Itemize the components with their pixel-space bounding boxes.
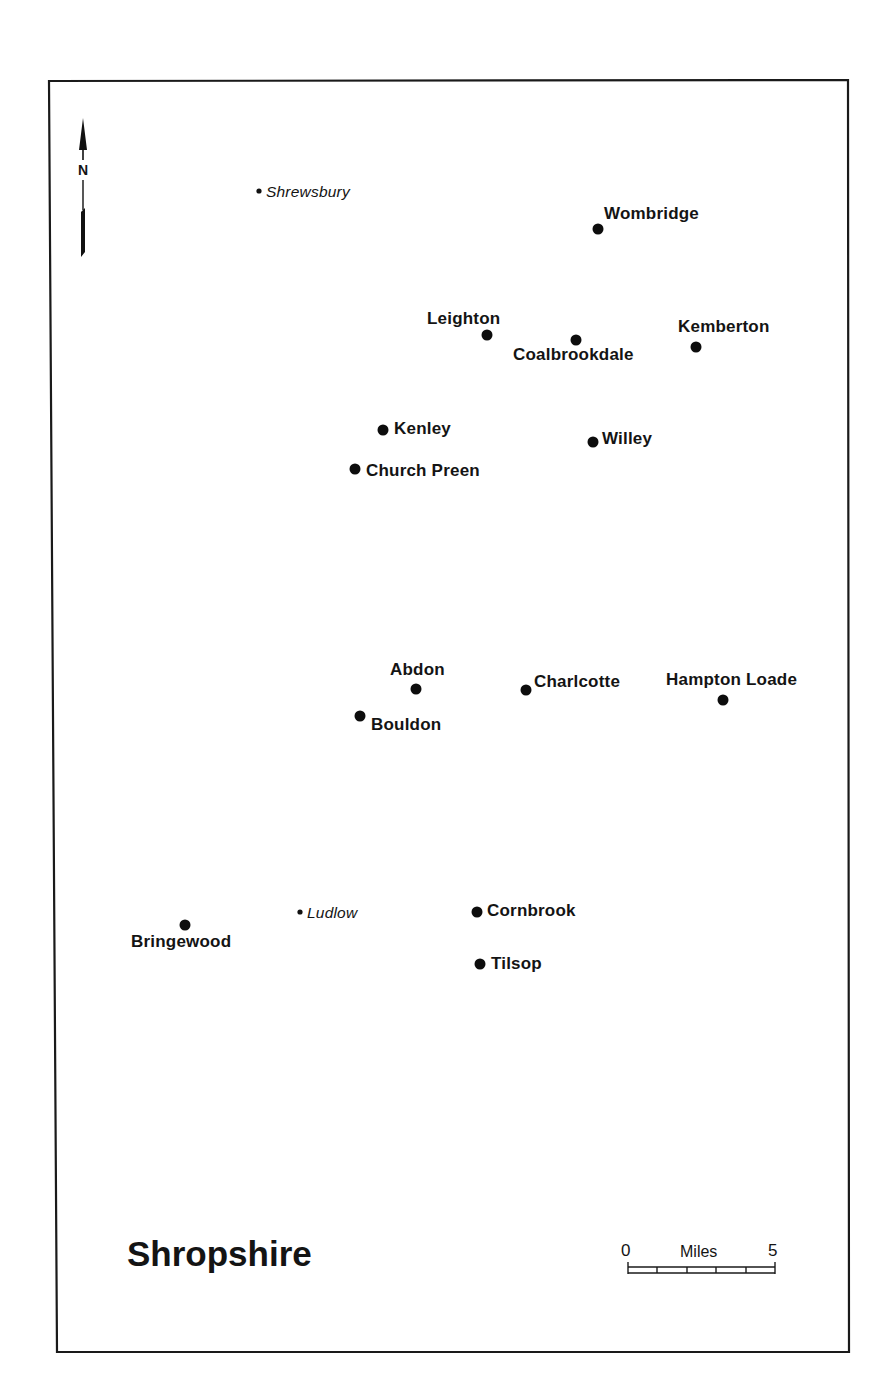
site-label-kemberton: Kemberton [678, 318, 770, 335]
site-dot-willey [588, 437, 599, 448]
site-dot-wombridge [593, 224, 604, 235]
map-title: Shropshire [127, 1236, 312, 1271]
north-label: N [78, 163, 88, 177]
site-dot-coalbrookdale [571, 335, 582, 346]
scale-end-label: 5 [768, 1242, 777, 1259]
site-dot-leighton [482, 330, 493, 341]
site-label-wombridge: Wombridge [604, 205, 699, 222]
site-dot-charlcotte [521, 685, 532, 696]
site-label-coalbrookdale: Coalbrookdale [513, 346, 634, 363]
site-label-willey: Willey [602, 430, 652, 447]
map-frame [49, 80, 849, 1352]
site-dot-abdon [411, 684, 422, 695]
site-label-leighton: Leighton [427, 310, 500, 327]
site-label-cornbrook: Cornbrook [487, 902, 576, 919]
site-dot-bouldon [355, 711, 366, 722]
site-dot-tilsop [475, 959, 486, 970]
north-arrow-icon [79, 118, 87, 257]
site-dot-hampton-loade [718, 695, 729, 706]
site-label-bringewood: Bringewood [131, 933, 231, 950]
site-label-bouldon: Bouldon [371, 716, 441, 733]
site-label-kenley: Kenley [394, 420, 451, 437]
town-label-shrewsbury: Shrewsbury [266, 184, 350, 200]
town-dot-ludlow [297, 909, 302, 914]
site-label-tilsop: Tilsop [491, 955, 542, 972]
scale-bar [628, 1262, 775, 1274]
site-dot-bringewood [180, 920, 191, 931]
site-dot-cornbrook [472, 907, 483, 918]
site-dot-kenley [378, 425, 389, 436]
town-dot-shrewsbury [256, 188, 261, 193]
site-dot-kemberton [691, 342, 702, 353]
site-label-church-preen: Church Preen [366, 462, 480, 479]
site-label-abdon: Abdon [390, 661, 445, 678]
site-label-hampton-loade: Hampton Loade [666, 671, 797, 688]
site-label-charlcotte: Charlcotte [534, 673, 620, 690]
scale-start-label: 0 [621, 1242, 630, 1259]
town-label-ludlow: Ludlow [307, 905, 357, 921]
site-dot-church-preen [350, 464, 361, 475]
scale-unit-label: Miles [680, 1244, 717, 1260]
map-canvas [0, 0, 887, 1399]
